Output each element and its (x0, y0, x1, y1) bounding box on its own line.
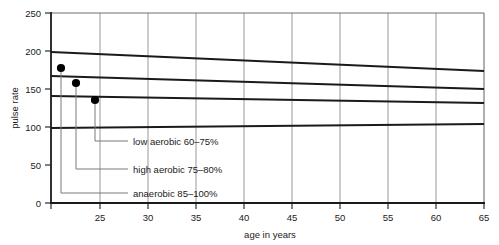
x-tick-label-55: 55 (383, 212, 394, 223)
marker-anaerobic (57, 64, 65, 72)
callout-label-high-aerobic: high aerobic 75–80% (133, 164, 223, 175)
x-axis-title: age in years (244, 229, 296, 240)
marker-high-aerobic (72, 79, 80, 87)
x-tick-label-35: 35 (191, 212, 202, 223)
y-tick-label-200: 200 (25, 46, 41, 57)
x-tick-label-50: 50 (335, 212, 346, 223)
y-tick-label-250: 250 (25, 8, 41, 19)
y-tick-label-50: 50 (30, 160, 41, 171)
y-tick-label-0: 0 (36, 198, 41, 209)
callout-label-low-aerobic: low aerobic 60–75% (133, 136, 219, 147)
x-tick-label-30: 30 (143, 212, 154, 223)
chart-background (0, 0, 499, 245)
x-tick-label-40: 40 (239, 212, 250, 223)
y-tick-label-100: 100 (25, 122, 41, 133)
y-axis-title: pulse rate (9, 87, 20, 129)
callout-label-anaerobic: anaerobic 85–100% (133, 188, 218, 199)
x-tick-label-65: 65 (479, 212, 490, 223)
marker-low-aerobic (91, 96, 99, 104)
x-tick-label-45: 45 (287, 212, 298, 223)
x-tick-label-60: 60 (431, 212, 442, 223)
pulse-rate-chart: 250 200 150 100 50 0 25 30 35 40 45 50 5… (0, 0, 499, 245)
chart-svg: 250 200 150 100 50 0 25 30 35 40 45 50 5… (0, 0, 499, 245)
callout-labels: low aerobic 60–75% high aerobic 75–80% a… (133, 136, 223, 199)
x-tick-label-25: 25 (95, 212, 106, 223)
y-tick-label-150: 150 (25, 84, 41, 95)
